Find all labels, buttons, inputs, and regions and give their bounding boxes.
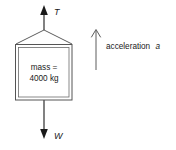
- sling-cables: [16, 30, 72, 44]
- diagram-canvas: mass = 4000 kg T W acceleration a: [0, 0, 176, 150]
- sling-cable-right: [44, 30, 72, 44]
- weight-arrowhead-icon: [40, 129, 48, 139]
- free-body-diagram: mass = 4000 kg T W acceleration a: [0, 0, 176, 150]
- tension-arrowhead-icon: [40, 5, 48, 15]
- acceleration-annotation-symbol: a: [155, 42, 160, 51]
- mass-box-inner-border: [19, 48, 70, 98]
- tension-label: T: [54, 7, 61, 17]
- weight-label: W: [54, 131, 64, 141]
- acceleration-annotation: acceleration a: [106, 42, 160, 51]
- weight-force-arrow: [40, 100, 48, 139]
- mass-box: [16, 45, 73, 101]
- sling-cable-left: [16, 30, 44, 44]
- mass-label-line-1: mass =: [31, 63, 58, 72]
- mass-label-line-2: 4000 kg: [29, 74, 59, 83]
- tension-force-arrow: [40, 5, 48, 30]
- acceleration-arrow: [92, 30, 101, 71]
- acceleration-annotation-text: acceleration: [106, 42, 151, 51]
